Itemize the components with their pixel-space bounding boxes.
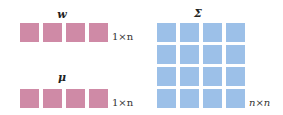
sigma-cell xyxy=(180,67,199,86)
sigma-cell xyxy=(203,67,222,86)
w-dims-label: 1×n xyxy=(112,31,133,42)
sigma-symbol-label: Σ xyxy=(188,7,208,20)
mu-cell-3 xyxy=(66,89,85,108)
sigma-cell xyxy=(157,89,176,108)
w-cell-1 xyxy=(20,23,39,42)
sigma-cell xyxy=(226,89,245,108)
mu-cell-4 xyxy=(89,89,108,108)
w-cell-4 xyxy=(89,23,108,42)
mu-symbol-label: μ xyxy=(52,71,72,84)
sigma-cell xyxy=(157,45,176,64)
sigma-dims-label: n×n xyxy=(249,97,270,108)
mu-cell-2 xyxy=(43,89,62,108)
sigma-cell xyxy=(180,23,199,42)
sigma-cell xyxy=(203,45,222,64)
w-symbol-label: w xyxy=(52,8,72,21)
sigma-cell xyxy=(203,89,222,108)
sigma-cell xyxy=(180,89,199,108)
sigma-cell xyxy=(226,67,245,86)
w-cell-3 xyxy=(66,23,85,42)
mu-dims-label: 1×n xyxy=(112,97,133,108)
sigma-cell xyxy=(157,67,176,86)
sigma-cell xyxy=(203,23,222,42)
sigma-cell xyxy=(226,23,245,42)
mu-cell-1 xyxy=(20,89,39,108)
sigma-cell xyxy=(157,23,176,42)
w-cell-2 xyxy=(43,23,62,42)
sigma-cell xyxy=(226,45,245,64)
sigma-cell xyxy=(180,45,199,64)
